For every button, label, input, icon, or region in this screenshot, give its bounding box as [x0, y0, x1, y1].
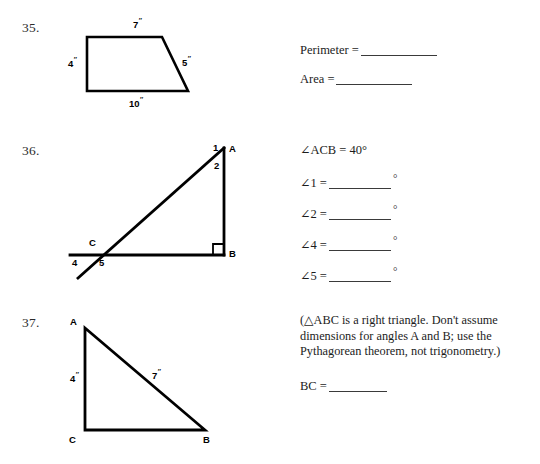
angle-2-prompt-label: ∠2 =: [300, 207, 327, 221]
trapezoid-bottom-label: 10″: [129, 97, 144, 109]
vertex-c-label-37: C: [69, 435, 76, 445]
angle-2-answer-blank[interactable]: [329, 207, 391, 220]
angle-5-prompt-label: ∠5 =: [300, 269, 327, 283]
trapezoid-left-label: 4″: [68, 57, 78, 69]
trapezoid-top-label: 7″: [133, 18, 143, 30]
angle-1-label: 1: [213, 143, 218, 153]
worksheet-page: 35. 7″ 4″ 5″ 10″ Perimeter = Area = 36. …: [0, 0, 540, 464]
angle-2-label: 2: [214, 161, 219, 171]
bc-answer-blank[interactable]: [329, 379, 387, 392]
perimeter-label: Perimeter =: [300, 43, 359, 57]
bc-prompt: BC =: [300, 379, 389, 394]
angle-5-label: 5: [99, 258, 104, 268]
given-angle-acb: ∠ACB = 40°: [300, 143, 367, 157]
vertex-b-label-36: B: [229, 249, 236, 259]
angle-1-answer-blank[interactable]: [329, 176, 391, 189]
area-label: Area =: [300, 72, 334, 86]
degree-symbol-2: °: [393, 203, 397, 215]
triangle-37-left-label: 4″: [70, 372, 80, 384]
area-prompt: Area =: [300, 72, 414, 87]
triangle-36-svg: [0, 130, 260, 290]
angle-4-prompt-label: ∠4 =: [300, 238, 327, 252]
degree-symbol-4: °: [393, 234, 397, 246]
bc-label: BC =: [300, 379, 327, 393]
angle-5-answer-blank[interactable]: [329, 269, 391, 282]
degree-symbol-5: °: [393, 265, 397, 277]
perimeter-prompt: Perimeter =: [300, 43, 439, 58]
problem-37-note: (△ABC is a right triangle. Don't assume …: [300, 313, 536, 360]
right-angle-marker-b: [213, 244, 224, 255]
figure-36-triangle: [0, 130, 260, 290]
triangle-37-outline: [85, 328, 205, 430]
vertex-a-label-37: A: [70, 317, 77, 327]
vertex-c-label-36: C: [89, 238, 96, 248]
angle-1-prompt-label: ∠1 =: [300, 176, 327, 190]
perimeter-answer-blank[interactable]: [361, 43, 437, 56]
area-answer-blank[interactable]: [336, 72, 412, 85]
degree-symbol-1: °: [393, 172, 397, 184]
triangle-37-hypotenuse-label: 7″: [152, 369, 162, 381]
trapezoid-outline: [87, 37, 188, 91]
angle-1-prompt: ∠1 =°: [300, 176, 397, 191]
angle-4-label: 4: [72, 258, 77, 268]
vertex-a-label-36: A: [229, 144, 236, 154]
angle-5-prompt: ∠5 =°: [300, 269, 397, 284]
angle-4-answer-blank[interactable]: [329, 238, 391, 251]
angle-2-prompt: ∠2 =°: [300, 207, 397, 222]
angle-4-prompt: ∠4 =°: [300, 238, 397, 253]
triangle-37-svg: [0, 300, 260, 464]
trapezoid-right-label: 5″: [182, 56, 192, 68]
figure-37-triangle: [0, 300, 260, 464]
vertex-b-label-37: B: [203, 435, 210, 445]
